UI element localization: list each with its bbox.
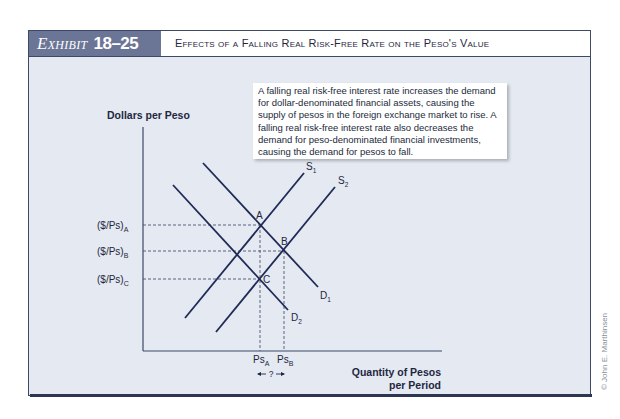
point-b-label: B: [281, 236, 288, 247]
ambiguity-marker: ?: [269, 369, 274, 379]
label-s2: S2: [338, 175, 349, 188]
point-c-label: C: [263, 274, 270, 285]
y-tick-price-c: ($/Ps)C: [97, 274, 129, 287]
y-axis-label: Dollars per Peso: [107, 109, 190, 121]
point-a-label: A: [256, 210, 263, 221]
copyright-credit: © John E. Marthinsen: [600, 313, 609, 390]
x-axis-label-line1: Quantity of Pesos: [352, 366, 441, 378]
supply-demand-chart: Dollars per Peso Quantity of Pesos per P…: [0, 0, 620, 419]
demand-curve-d2: [173, 185, 288, 310]
label-d2: D2: [291, 312, 302, 325]
y-tick-price-b: ($/Ps)B: [97, 246, 129, 259]
x-axis-label-line2: per Period: [389, 379, 441, 391]
label-s1: S1: [306, 161, 317, 174]
ambiguity-arrow: ?: [257, 369, 285, 379]
x-tick-quantity-b: PsB: [277, 354, 294, 367]
label-d1: D1: [320, 290, 331, 303]
x-tick-quantity-a: PsA: [253, 354, 270, 367]
y-tick-price-a: ($/Ps)A: [97, 220, 129, 233]
